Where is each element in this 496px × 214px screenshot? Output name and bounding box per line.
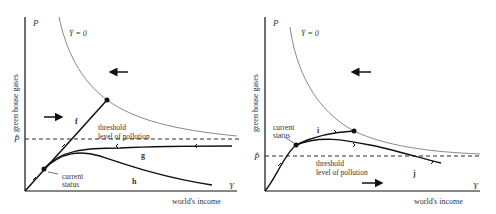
path-j-label: j [412, 169, 416, 178]
isocline-label: Ẏ = 0 [69, 29, 87, 38]
threshold-label-2: level of pollution [98, 132, 150, 141]
path-ticks [278, 130, 433, 166]
y-symbol: P [272, 18, 279, 28]
threshold-label-1: threshold [98, 123, 126, 132]
current-status-dot [294, 143, 299, 148]
y-axis-label: green house gases [11, 74, 20, 132]
current-status-label-2: status [273, 131, 290, 140]
phase-diagrams: P Y Ẏ = 0 green house gases world's inco… [0, 0, 496, 214]
current-status-dot [42, 167, 47, 172]
equilibrium-dot [105, 98, 110, 103]
left-panel: P Y Ẏ = 0 green house gases world's inco… [11, 17, 240, 206]
path-i-label: i [317, 126, 320, 135]
isocline-label: Ẏ = 0 [301, 29, 319, 38]
x-axis-label: world's income [172, 197, 221, 206]
x-symbol: Y [473, 181, 479, 191]
path-f-label: f [75, 117, 78, 126]
x-symbol: Y [229, 181, 235, 191]
y-axis-label: green house gases [251, 74, 260, 132]
current-status-pointer [48, 172, 58, 174]
y-symbol: P [32, 18, 39, 28]
right-panel: P Y Ẏ = 0 green house gases world's inco… [251, 17, 480, 206]
rising-path [265, 145, 296, 191]
threshold-symbol: P̂ [253, 152, 260, 162]
threshold-label-1: threshold [316, 159, 344, 168]
path-g-label: g [141, 151, 145, 160]
x-axis-label: world's income [414, 197, 463, 206]
path-g [44, 146, 232, 169]
path-i [296, 131, 354, 145]
path-h-label: h [132, 177, 137, 186]
threshold-symbol: P̂ [13, 134, 20, 144]
threshold-label-2: level of pollution [316, 168, 368, 177]
current-status-label-2: status [62, 180, 79, 189]
equilibrium-dot [352, 129, 357, 134]
